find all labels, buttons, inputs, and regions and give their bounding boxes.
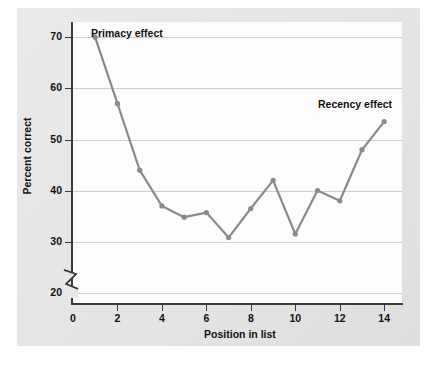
series-polyline xyxy=(95,37,384,237)
data-point-marker xyxy=(226,235,231,240)
data-point-marker xyxy=(137,168,142,173)
data-point-marker xyxy=(182,215,187,220)
data-point-marker xyxy=(315,188,320,193)
data-series-line xyxy=(0,0,436,365)
data-point-marker xyxy=(382,119,387,124)
data-point-marker xyxy=(115,101,120,106)
data-point-marker xyxy=(159,203,164,208)
annotation-recency-effect: Recency effect xyxy=(318,98,392,110)
data-point-marker xyxy=(204,210,209,215)
annotation-primacy-effect: Primacy effect xyxy=(91,27,163,39)
data-point-marker xyxy=(293,231,298,236)
data-point-marker xyxy=(271,178,276,183)
chart-screenshot: 203040506070 02468101214 Percent correct… xyxy=(0,0,436,365)
data-point-marker xyxy=(359,147,364,152)
data-point-marker xyxy=(248,206,253,211)
data-point-marker xyxy=(337,198,342,203)
